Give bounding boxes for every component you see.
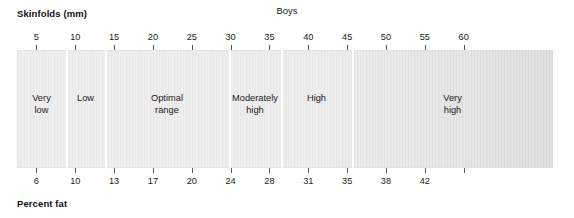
bottom-tick: [36, 168, 37, 173]
top-tick-label: 25: [187, 32, 197, 42]
bottom-tick: [464, 168, 465, 173]
top-tick-label: 10: [70, 32, 80, 42]
bottom-tick-label: 24: [225, 176, 235, 186]
bottom-tick-label: 17: [148, 176, 158, 186]
bottom-tick-label: 13: [109, 176, 119, 186]
band-divider: [105, 50, 107, 168]
bottom-axis-title: Percent fat: [17, 198, 67, 209]
bottom-tick: [386, 168, 387, 173]
top-tick-label: 40: [303, 32, 313, 42]
band-label: Moderately high: [232, 93, 278, 116]
band-divider: [281, 50, 283, 168]
bottom-tick-label: 28: [264, 176, 274, 186]
bottom-tick-label: 38: [381, 176, 391, 186]
band-divider: [66, 50, 68, 168]
band-label: High: [307, 93, 326, 105]
skinfolds-percent-fat-chart: Skinfolds (mm) Boys 51015202530354045505…: [0, 0, 574, 218]
band-divider: [352, 50, 354, 168]
top-tick-label: 5: [34, 32, 39, 42]
bottom-tick: [347, 168, 348, 173]
band-label: Very high: [443, 93, 462, 116]
top-tick-label: 20: [148, 32, 158, 42]
bottom-tick-label: 10: [70, 176, 80, 186]
top-tick-label: 60: [459, 32, 469, 42]
band-label: Very low: [32, 93, 51, 116]
top-tick-label: 45: [342, 32, 352, 42]
chart-title: Boys: [0, 5, 574, 16]
bottom-tick: [269, 168, 270, 173]
band-divider: [229, 50, 231, 168]
bottom-tick-label: 6: [34, 176, 39, 186]
bottom-tick-label: 35: [342, 176, 352, 186]
bottom-tick: [192, 168, 193, 173]
bottom-tick-label: 31: [303, 176, 313, 186]
classification-band-strip: Very lowLowOptimal rangeModerately highH…: [17, 50, 553, 168]
band-label: Optimal range: [151, 93, 183, 116]
top-tick-label: 35: [264, 32, 274, 42]
top-tick-label: 15: [109, 32, 119, 42]
bottom-tick-label: 42: [420, 176, 430, 186]
bottom-tick: [425, 168, 426, 173]
band-label: Low: [77, 93, 94, 105]
top-tick-label: 50: [381, 32, 391, 42]
bottom-tick: [153, 168, 154, 173]
bottom-tick: [114, 168, 115, 173]
bottom-tick: [308, 168, 309, 173]
bottom-tick-label: 20: [187, 176, 197, 186]
bottom-tick: [75, 168, 76, 173]
top-tick-label: 30: [225, 32, 235, 42]
bottom-tick: [231, 168, 232, 173]
top-tick-label: 55: [420, 32, 430, 42]
